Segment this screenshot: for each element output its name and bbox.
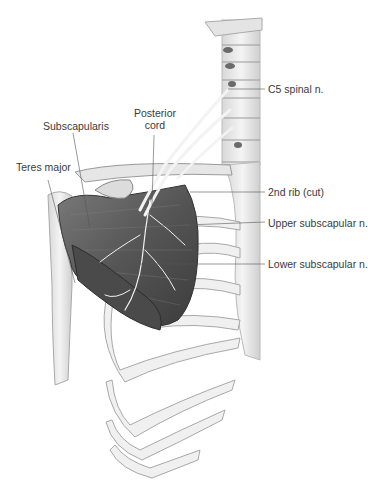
- clavicle: [75, 164, 232, 182]
- label-second-rib: 2nd rib (cut): [268, 186, 324, 198]
- label-teres-major: Teres major: [16, 161, 71, 173]
- coracoid-process: [95, 180, 133, 199]
- label-upper-subscapular-nerve: Upper subscapular n.: [268, 217, 368, 229]
- label-lower-subscapular-nerve: Lower subscapular n.: [268, 258, 368, 270]
- label-posterior-cord-line2: cord: [132, 119, 178, 131]
- label-posterior-cord-line1: Posterior: [132, 107, 178, 119]
- label-subscapularis: Subscapularis: [43, 120, 109, 132]
- label-c5-spinal-nerve: C5 spinal n.: [268, 83, 323, 95]
- label-posterior-cord: Posterior cord: [132, 107, 178, 131]
